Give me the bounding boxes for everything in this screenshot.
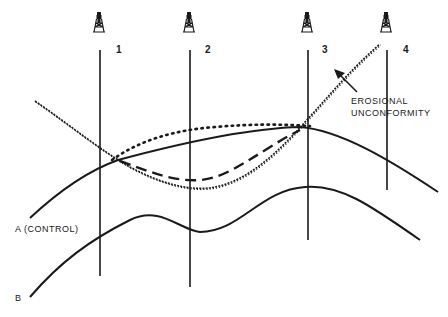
well-2-label: 2 [205, 44, 211, 55]
annotation-line-2: UNCONFORMITY [351, 108, 431, 119]
oil-derrick-icon [380, 12, 392, 32]
horizon-b-label: B [15, 293, 22, 304]
well-3-label: 3 [322, 44, 328, 55]
annotation-line-1: EROSIONAL [351, 96, 408, 107]
oil-derrick-icon [183, 12, 195, 32]
oil-derrick-icon [301, 12, 313, 32]
well-1-label: 1 [116, 44, 122, 55]
cross-section-diagram [0, 0, 448, 317]
horizon-b-curve [30, 187, 420, 297]
horizon-a-label: A (CONTROL) [15, 224, 79, 235]
oil-derrick-icon [93, 12, 105, 32]
well-4-label: 4 [403, 44, 409, 55]
erosional-unconformity-curve [35, 44, 380, 188]
